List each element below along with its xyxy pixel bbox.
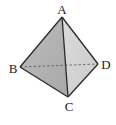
- vertex-label-b: B: [9, 61, 18, 76]
- vertex-label-d: D: [101, 57, 110, 72]
- vertex-label-c: C: [65, 99, 74, 114]
- vertex-label-a: A: [57, 2, 67, 17]
- tetrahedron-diagram: A B C D: [0, 0, 116, 125]
- face-abc: [20, 17, 68, 97]
